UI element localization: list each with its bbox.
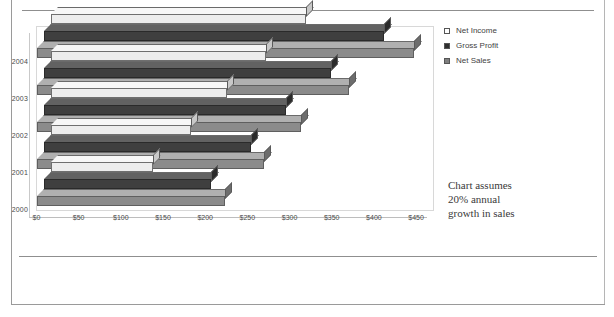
bar-2001-net-income <box>51 125 192 135</box>
x-axis-labels: $0$50$100$150$200$250$300$350$400$450 <box>0 214 460 228</box>
legend-label: Net Sales <box>456 56 491 65</box>
annotation-line-3: growth in sales <box>448 206 578 220</box>
bar-2000-gross-profit <box>44 179 212 189</box>
bar-2004-gross-profit <box>44 31 385 41</box>
page-canvas: 20042003200220012000 $0$50$100$150$200$2… <box>0 0 614 317</box>
legend-label: Gross Profit <box>456 41 498 50</box>
bar-front-face <box>51 125 192 135</box>
bar-chart: 20042003200220012000 $0$50$100$150$200$2… <box>0 0 614 317</box>
bar-2004-net-income <box>51 14 307 24</box>
bar-front-face <box>51 51 266 61</box>
bar-top-face <box>51 155 161 162</box>
bar-2001-gross-profit <box>44 142 252 152</box>
bar-end-cap <box>225 182 232 199</box>
bar-front-face <box>44 31 385 41</box>
x-axis-tick-400: $400 <box>366 214 382 221</box>
bar-front-face <box>51 162 154 172</box>
legend-label: Net Income <box>456 26 497 35</box>
x-axis-tick-200: $200 <box>197 214 213 221</box>
bar-top-face <box>44 98 294 105</box>
x-axis-tick-300: $300 <box>282 214 298 221</box>
bar-end-cap <box>306 0 313 17</box>
x-axis-tick-150: $150 <box>155 214 171 221</box>
annotation-line-2: 20% annual <box>448 192 578 206</box>
bar-front-face <box>44 179 212 189</box>
x-axis-tick-450: $450 <box>408 214 424 221</box>
bar-front-face <box>44 68 332 78</box>
bar-end-cap <box>301 108 308 125</box>
bar-2003-net-income <box>51 51 266 61</box>
bar-front-face <box>44 105 287 115</box>
bar-front-face <box>51 88 227 98</box>
legend-swatch-icon <box>444 28 450 34</box>
legend-item-gross-profit: Gross Profit <box>444 39 564 52</box>
chart-annotation: Chart assumes 20% annual growth in sales <box>448 178 578 220</box>
bar-2000-net-sales <box>37 196 225 206</box>
x-axis-tick-0: $0 <box>33 214 41 221</box>
bar-end-cap <box>414 34 421 51</box>
x-axis-tick-50: $50 <box>73 214 85 221</box>
legend-swatch-icon <box>444 43 450 49</box>
bar-2003-gross-profit <box>44 68 332 78</box>
legend-item-net-sales: Net Sales <box>444 54 564 67</box>
bar-top-face <box>44 24 392 31</box>
bar-end-cap <box>264 145 271 162</box>
bar-2002-net-income <box>51 88 227 98</box>
bar-top-face <box>44 135 259 142</box>
bar-top-face <box>44 61 339 68</box>
legend-item-net-income: Net Income <box>444 24 564 37</box>
bar-top-face <box>51 81 234 88</box>
bar-2002-gross-profit <box>44 105 287 115</box>
bar-front-face <box>51 14 307 24</box>
bar-end-cap <box>349 71 356 88</box>
bar-top-face <box>51 7 314 14</box>
bar-front-face <box>44 142 252 152</box>
bar-top-face <box>37 189 232 196</box>
bar-top-face <box>51 118 199 125</box>
bar-top-face <box>51 44 273 51</box>
bar-top-face <box>44 172 219 179</box>
bar-2000-net-income <box>51 162 154 172</box>
bar-end-cap <box>384 17 391 34</box>
bar-front-face <box>37 196 225 206</box>
chart-legend: Net IncomeGross ProfitNet Sales <box>444 24 564 69</box>
legend-swatch-icon <box>444 58 450 64</box>
x-axis-tick-250: $250 <box>240 214 256 221</box>
x-axis-tick-100: $100 <box>113 214 129 221</box>
x-axis-tick-350: $350 <box>324 214 340 221</box>
annotation-line-1: Chart assumes <box>448 178 578 192</box>
